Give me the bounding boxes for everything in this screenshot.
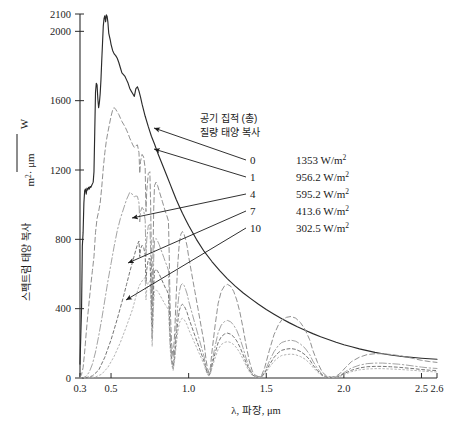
y-axis-unit-numerator: W xyxy=(18,118,30,129)
legend-air-mass-0: 0 xyxy=(250,154,256,166)
series-curve-air-mass-4 xyxy=(80,193,437,378)
legend-header-line1: 공기 집적 (총) xyxy=(200,113,257,124)
legend: 공기 집적 (총) 질량 태양 복사 01353 W/m21956.2 W/m2… xyxy=(200,113,349,234)
data-series-group xyxy=(80,15,437,378)
y-tick-label: 800 xyxy=(55,234,71,245)
legend-rows: 01353 W/m21956.2 W/m24595.2 W/m27413.6 W… xyxy=(250,153,349,234)
x-tick-label: 2.5 xyxy=(415,383,428,394)
legend-irradiance-exponent: 2 xyxy=(345,170,349,179)
y-tick-label: 1600 xyxy=(50,95,71,106)
y-axis-label-text: 스펙트럼 태양 복사 xyxy=(20,223,32,301)
series-curve-air-mass-7 xyxy=(80,241,437,378)
legend-irradiance-10: 302.5 W/m2 xyxy=(296,221,349,234)
x-tick-label: 0.3 xyxy=(73,383,86,394)
legend-irradiance-1: 956.2 W/m2 xyxy=(296,170,349,183)
series-curve-air-mass-0 xyxy=(80,15,437,364)
x-tick-label: 1.0 xyxy=(182,383,195,394)
leader-arrow-am4 xyxy=(132,194,246,218)
legend-irradiance-4: 595.2 W/m2 xyxy=(296,187,349,200)
legend-irradiance-exponent: 2 xyxy=(345,204,349,213)
legend-irradiance-value: 1353 W/m xyxy=(296,154,343,166)
legend-irradiance-0: 1353 W/m2 xyxy=(296,153,347,166)
y-tick-label: 400 xyxy=(55,303,71,314)
legend-irradiance-value: 413.6 W/m xyxy=(296,205,346,217)
y-axis-label-group: W m2· μm 스펙트럼 태양 복사 xyxy=(17,118,36,301)
legend-irradiance-7: 413.6 W/m2 xyxy=(296,204,349,217)
x-axis-label: λ, 파장, μm xyxy=(231,405,280,416)
y-axis-unit-denominator: m2· μm xyxy=(24,153,37,187)
legend-irradiance-value: 302.5 W/m xyxy=(296,222,346,234)
solar-spectral-irradiance-chart: 04008001200160020002100 0.30.51.01.52.02… xyxy=(0,0,453,431)
legend-irradiance-exponent: 2 xyxy=(345,221,349,230)
axes xyxy=(80,14,437,378)
y-axis-unit-denominator-tail: · μm xyxy=(24,153,36,174)
y-tick-label: 0 xyxy=(66,373,71,384)
series-curve-air-mass-1 xyxy=(80,108,437,378)
x-tick-label: 1.5 xyxy=(260,383,273,394)
leader-arrow-am1 xyxy=(154,149,246,177)
legend-air-mass-10: 10 xyxy=(250,222,262,234)
legend-air-mass-1: 1 xyxy=(250,171,256,183)
legend-irradiance-exponent: 2 xyxy=(345,187,349,196)
y-tick-label: 2000 xyxy=(50,26,71,37)
x-tick-label: 2.6 xyxy=(430,383,443,394)
y-tick-label: 1200 xyxy=(50,165,71,176)
legend-air-mass-4: 4 xyxy=(250,188,256,200)
legend-irradiance-exponent: 2 xyxy=(343,153,347,162)
chart-canvas: 04008001200160020002100 0.30.51.01.52.02… xyxy=(0,0,453,431)
legend-header-line2: 질량 태양 복사 xyxy=(200,127,260,138)
x-tick-label: 2.0 xyxy=(337,383,350,394)
legend-irradiance-value: 595.2 W/m xyxy=(296,188,346,200)
x-tick-label: 0.5 xyxy=(104,383,117,394)
y-tick-label: 2100 xyxy=(50,9,71,20)
legend-irradiance-value: 956.2 W/m xyxy=(296,171,346,183)
y-axis-ticks: 04008001200160020002100 xyxy=(50,9,84,384)
legend-air-mass-7: 7 xyxy=(250,205,256,217)
